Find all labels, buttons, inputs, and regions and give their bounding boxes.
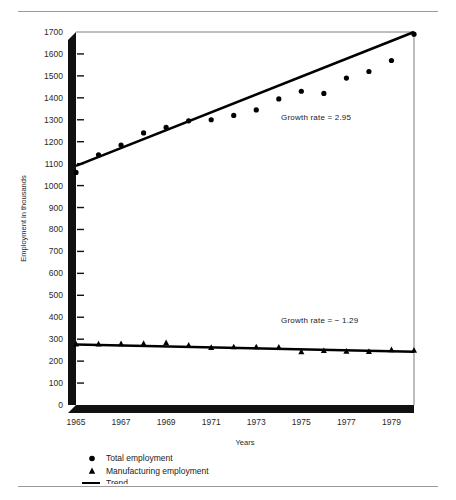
data-point — [163, 339, 169, 345]
x-tick-label: 1969 — [157, 417, 176, 427]
y-tick-label: 900 — [49, 203, 63, 213]
y-tick-label: 800 — [49, 224, 63, 234]
data-point — [141, 130, 146, 135]
y-tick-label: 1100 — [45, 159, 64, 169]
y-tick-label: 1300 — [44, 115, 63, 125]
data-point — [73, 170, 78, 175]
data-point — [321, 91, 326, 96]
data-point — [276, 344, 282, 350]
y-tick-label: 1700 — [44, 27, 63, 37]
y-tick-label: 400 — [49, 312, 63, 322]
legend-item-label: Manufacturing employment — [106, 466, 209, 476]
x-tick-label: 1971 — [202, 417, 221, 427]
data-point — [186, 342, 192, 348]
x-axis-title: Years — [236, 438, 255, 447]
x-axis-tick-labels: 19651967196919711973197519771979 — [67, 417, 402, 427]
y-tick-label: 1000 — [44, 181, 63, 191]
data-point — [276, 96, 281, 101]
legend-item-label: Total employment — [106, 453, 173, 463]
x-tick-label: 1977 — [337, 417, 356, 427]
x-axis-bar — [68, 405, 414, 413]
y-axis-title: Employment in thousands — [19, 175, 28, 262]
data-point — [164, 125, 169, 130]
chart-canvas: 0100200300400500600700800900100011001200… — [0, 14, 456, 484]
legend-circle-icon — [89, 456, 95, 462]
employment-chart: 0100200300400500600700800900100011001200… — [0, 14, 456, 484]
y-tick-label: 500 — [49, 290, 63, 300]
y-tick-label: 700 — [49, 246, 63, 256]
legend-triangle-icon — [89, 468, 95, 474]
chart-annotations: Growth rate = 2.95Growth rate = − 1.29 — [281, 113, 359, 325]
top-divider-rule — [18, 11, 438, 12]
x-tick-label: 1975 — [292, 417, 311, 427]
x-tick-label: 1973 — [247, 417, 266, 427]
x-tick-label: 1979 — [382, 417, 401, 427]
y-tick-label: 600 — [49, 268, 63, 278]
chart-legend: Total employmentManufacturing employment… — [82, 453, 209, 484]
data-point — [411, 32, 416, 37]
legend-item-label: Trend — [106, 478, 128, 484]
data-point — [388, 347, 394, 353]
data-point — [118, 341, 124, 347]
series-total-employment-points — [73, 32, 416, 175]
x-tick-label: 1967 — [112, 417, 131, 427]
y-axis-bar — [68, 32, 76, 405]
growth-rate-annotation: Growth rate = 2.95 — [281, 113, 351, 122]
y-tick-label: 1400 — [44, 93, 63, 103]
x-tick-label: 1965 — [67, 417, 86, 427]
data-point — [366, 69, 371, 74]
y-tick-label: 1200 — [44, 137, 63, 147]
data-point — [186, 118, 191, 123]
data-point — [253, 344, 259, 350]
figure-page: 0100200300400500600700800900100011001200… — [0, 0, 456, 500]
bottom-divider-rule — [18, 486, 438, 487]
y-tick-label: 0 — [58, 400, 63, 410]
data-point — [96, 152, 101, 157]
data-point — [344, 75, 349, 80]
data-point — [209, 117, 214, 122]
growth-rate-annotation: Growth rate = − 1.29 — [281, 316, 359, 325]
data-point — [254, 107, 259, 112]
data-point — [141, 340, 147, 346]
y-tick-label: 1600 — [44, 49, 63, 59]
trend-line — [76, 32, 414, 166]
trend-lines — [76, 32, 414, 352]
y-tick-label: 100 — [49, 378, 63, 388]
data-point — [411, 347, 417, 353]
data-point — [299, 89, 304, 94]
data-point — [118, 142, 123, 147]
y-axis-tick-marks — [77, 54, 84, 383]
trend-line — [76, 344, 414, 351]
y-tick-label: 300 — [49, 334, 63, 344]
y-tick-label: 1500 — [44, 71, 63, 81]
data-point — [389, 58, 394, 63]
y-axis-tick-labels: 0100200300400500600700800900100011001200… — [44, 27, 63, 410]
y-tick-label: 200 — [49, 356, 63, 366]
data-point — [231, 113, 236, 118]
